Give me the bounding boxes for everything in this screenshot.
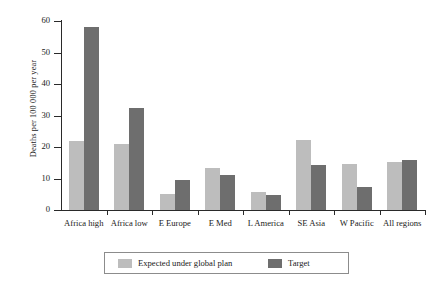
bar-group bbox=[387, 21, 417, 210]
legend-swatch-expected bbox=[118, 259, 132, 268]
x-label-e-europe: E Europe bbox=[152, 218, 198, 228]
x-tick-mark bbox=[425, 210, 426, 215]
bar-expected bbox=[160, 194, 175, 210]
bar-group bbox=[160, 21, 190, 210]
y-tick-mark bbox=[54, 116, 61, 117]
bar-expected bbox=[342, 164, 357, 210]
bar-target bbox=[311, 165, 326, 210]
y-tick-label: 40 bbox=[8, 79, 50, 88]
x-tick-mark bbox=[243, 210, 244, 215]
y-tick-label: 0 bbox=[8, 205, 50, 214]
bar-target bbox=[266, 195, 281, 210]
legend-entry-target: Target bbox=[268, 253, 310, 273]
x-label-w-pacific: W Pacific bbox=[334, 218, 380, 228]
bar-target bbox=[175, 180, 190, 210]
y-tick-label: 10 bbox=[8, 174, 50, 183]
y-tick-label: 20 bbox=[8, 142, 50, 151]
y-tick-label: 60 bbox=[8, 16, 50, 25]
bar-expected bbox=[251, 192, 266, 210]
bar-target bbox=[220, 175, 235, 210]
y-tick-mark bbox=[54, 147, 61, 148]
legend-swatch-target bbox=[268, 259, 282, 268]
legend-entry-expected: Expected under global plan bbox=[118, 253, 232, 273]
bar-target bbox=[129, 108, 144, 210]
y-tick-mark bbox=[54, 179, 61, 180]
x-tick-mark bbox=[198, 210, 199, 215]
bar-group bbox=[205, 21, 235, 210]
x-tick-mark bbox=[289, 210, 290, 215]
legend-label-target: Target bbox=[288, 258, 310, 268]
plot-area bbox=[61, 21, 425, 210]
y-tick-mark bbox=[54, 53, 61, 54]
bar-expected bbox=[296, 140, 311, 210]
x-label-africa-low: Africa low bbox=[107, 218, 153, 228]
x-label-all-regions: All regions bbox=[380, 218, 426, 228]
bar-expected bbox=[387, 162, 402, 211]
y-tick-label: 50 bbox=[8, 48, 50, 57]
x-label-l-america: L America bbox=[243, 218, 289, 228]
bar-group bbox=[69, 21, 99, 210]
bar-expected bbox=[114, 144, 129, 210]
bar-target bbox=[84, 27, 99, 210]
bar-group bbox=[114, 21, 144, 210]
legend: Expected under global plan Target bbox=[104, 252, 349, 274]
bar-target bbox=[402, 160, 417, 210]
bar-expected bbox=[205, 168, 220, 210]
legend-label-expected: Expected under global plan bbox=[138, 258, 232, 268]
bar-group bbox=[251, 21, 281, 210]
x-label-e-med: E Med bbox=[198, 218, 244, 228]
x-tick-mark bbox=[107, 210, 108, 215]
bar-group bbox=[296, 21, 326, 210]
y-tick-label: 30 bbox=[8, 111, 50, 120]
y-tick-mark bbox=[54, 210, 61, 211]
bar-target bbox=[357, 187, 372, 210]
bar-chart: Deaths per 100 000 per year 010203040506… bbox=[0, 0, 435, 287]
x-tick-mark bbox=[334, 210, 335, 215]
x-tick-mark bbox=[152, 210, 153, 215]
x-label-africa-high: Africa high bbox=[61, 218, 107, 228]
y-axis-title: Deaths per 100 000 per year bbox=[29, 19, 38, 199]
bar-expected bbox=[69, 141, 84, 210]
x-tick-mark bbox=[380, 210, 381, 215]
bar-group bbox=[342, 21, 372, 210]
y-tick-mark bbox=[54, 21, 61, 22]
x-label-se-asia: SE Asia bbox=[289, 218, 335, 228]
y-tick-mark bbox=[54, 84, 61, 85]
